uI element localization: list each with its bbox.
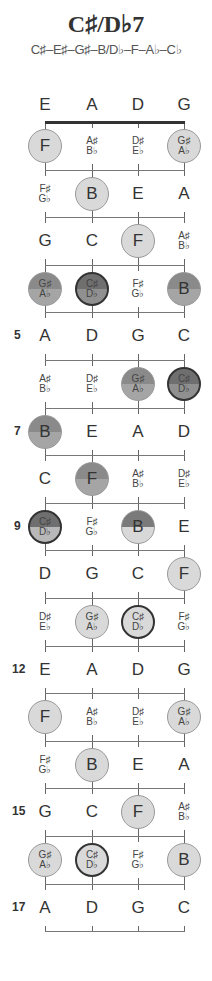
fret-note: D♯E♭ [74,366,110,402]
note-label: G♭ [39,194,52,204]
note-label: A [178,756,189,774]
root-note-marker: C♯D♭ [167,367,201,401]
root-note-marker: C♯D♭ [121,605,155,639]
fret-line [45,931,185,932]
note-label: B♭ [178,812,190,822]
note-label: B [132,518,143,536]
note-label: F [40,137,50,155]
note-label: A [86,96,97,114]
note-label: A [39,899,50,917]
fret-note: F♯G♭ [74,509,110,545]
fret-note: A [166,176,202,212]
fret-line [45,455,185,456]
note-label: D [132,661,144,679]
note-label: C [178,899,190,917]
note-label: G♭ [178,622,191,632]
note-label: D [132,96,144,114]
note-label: E [39,661,50,679]
fret-note: E [120,176,156,212]
fret-note: F♯G♭ [166,604,202,640]
fret-note: E [74,414,110,450]
note-label: A♭ [39,289,51,299]
fret-note: A♯B♭ [166,794,202,830]
fret-note: A♯B♭ [120,461,156,497]
fret-line [45,693,185,694]
note-label: G [38,803,51,821]
fret-note: C [166,318,202,354]
note-label: A [178,185,189,203]
fret-note: A [27,890,63,926]
note-label: C [86,803,98,821]
fret-note: E [166,509,202,545]
fret-line [45,312,185,313]
chord-tone-marker: B [167,843,201,877]
fret-line [45,503,185,504]
fret-note: G [120,890,156,926]
open-string-label: G [166,87,202,123]
chord-tone-marker: F [167,557,201,591]
nut [45,121,185,124]
fret-note: D [120,652,156,688]
fret-note: A [166,747,202,783]
note-label: A [86,661,97,679]
note-label: B [178,851,189,869]
open-string-label: D [120,87,156,123]
fretboard-diagram: EADGFA♯B♭D♯E♭G♯A♭F♯G♭BEAGCFA♯B♭G♯A♭C♯D♭F… [0,0,212,981]
chord-tone-marker: B [121,510,155,544]
note-label: G [85,565,98,583]
note-label: E [86,423,97,441]
note-label: A♭ [86,622,98,632]
note-label: E♭ [178,479,190,489]
fret-note: A♯B♭ [27,366,63,402]
note-label: F [179,565,189,583]
fret-note: D [74,318,110,354]
note-label: B♭ [86,146,98,156]
note-label: A♭ [39,860,51,870]
note-label: D [86,899,98,917]
note-label: D [178,423,190,441]
chord-tone-marker: F [75,462,109,496]
open-string-label: A [74,87,110,123]
fret-line [45,836,185,837]
fret-number: 15 [12,804,30,818]
fret-line [45,408,185,409]
fret-note: C [166,890,202,926]
fret-note: E [27,652,63,688]
chord-tone-marker: G♯A♭ [75,605,109,639]
fret-note: E [120,747,156,783]
fret-line [45,788,185,789]
fret-note: G [166,652,202,688]
open-string-label: E [27,87,63,123]
chord-tone-marker: F [28,129,62,163]
fret-note: C [74,794,110,830]
fret-note: G [120,318,156,354]
note-label: G♭ [132,860,145,870]
note-label: C [39,470,51,488]
note-label: B♭ [178,241,190,251]
fret-note: D♯E♭ [166,461,202,497]
note-label: B♭ [39,384,51,394]
fret-note: C [27,461,63,497]
fret-note: D♯E♭ [120,699,156,735]
note-label: D [86,327,98,345]
fret-line [45,360,185,361]
note-label: G♭ [86,527,99,537]
root-note-marker: C♯D♭ [28,510,62,544]
note-label: F [133,232,143,250]
note-label: D♭ [178,384,190,394]
root-note-marker: C♯D♭ [75,843,109,877]
fret-note: D [27,556,63,592]
note-label: B [86,185,97,203]
fret-note: C [74,223,110,259]
note-label: B♭ [132,479,144,489]
root-note-marker: C♯D♭ [75,272,109,306]
chord-tone-marker: B [75,748,109,782]
fret-line [45,217,185,218]
note-label: A [39,327,50,345]
fret-note: F♯G♭ [120,842,156,878]
fret-note: A [74,652,110,688]
note-label: G [177,661,190,679]
note-label: A♭ [178,146,190,156]
note-label: B [39,423,50,441]
chord-tone-marker: F [28,700,62,734]
